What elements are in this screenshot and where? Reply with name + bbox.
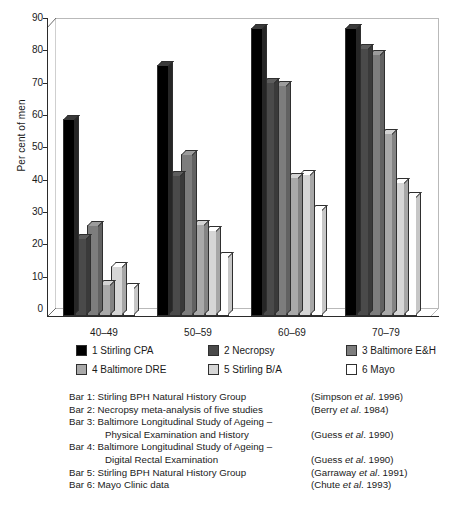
bar-side-face — [204, 220, 209, 315]
legend-label: 2 Necropsy — [224, 345, 275, 356]
bar-side-face — [216, 226, 221, 315]
bar-side-face — [416, 192, 421, 315]
legend-entry[interactable]: 2 Necropsy — [208, 341, 275, 359]
y-tick-label: 30 — [32, 207, 43, 217]
legend-entry[interactable]: 4 Baltimore DRE — [76, 360, 166, 378]
legend-label: 3 Baltimore E&H — [362, 345, 436, 356]
bar-side-face — [286, 81, 291, 315]
bar-side-face — [310, 170, 315, 315]
caption-description: Bar 3: Baltimore Longitudinal Study of A… — [69, 416, 272, 429]
caption-description: Digital Rectal Examination — [105, 454, 218, 467]
caption-line: Bar 4: Baltimore Longitudinal Study of A… — [69, 441, 439, 454]
bar-side-face — [322, 205, 327, 315]
y-tick-label: 0 — [37, 304, 43, 314]
y-tick-label: 70 — [32, 78, 43, 88]
bar-side-face — [392, 129, 397, 315]
bar-side-face — [98, 221, 103, 315]
bar-group: 50–59 — [157, 25, 239, 316]
legend-entry[interactable]: 6 Mayo — [346, 360, 395, 378]
legend-swatch-icon — [346, 364, 357, 375]
legend-swatch-icon — [76, 364, 87, 375]
chart-legend: 1 Stirling CPA2 Necropsy3 Baltimore E&H … — [0, 341, 453, 383]
bar — [251, 28, 263, 316]
caption-block: Bar 1: Stirling BPH Natural History Grou… — [69, 391, 439, 492]
y-tick-mark — [43, 277, 47, 278]
caption-line: Physical Examination and History(Guess e… — [69, 429, 439, 442]
bar-side-face — [380, 50, 385, 315]
bar — [345, 28, 357, 316]
y-tick-mark — [43, 212, 47, 213]
bar-side-face — [192, 150, 197, 315]
legend-swatch-icon — [208, 345, 219, 356]
bar-group: 60–69 — [251, 25, 333, 316]
caption-reference: (Garraway et al. 1991) — [311, 467, 407, 480]
plot-left-wall — [47, 18, 56, 317]
bar-side-face — [228, 252, 233, 315]
bar-chart-figure: Per cent of men 0102030405060708090 40–4… — [0, 0, 453, 340]
bar — [157, 65, 169, 316]
y-tick-mark — [43, 83, 47, 84]
legend-swatch-icon — [208, 364, 219, 375]
caption-line: Digital Rectal Examination(Guess et al. … — [69, 454, 439, 467]
caption-description: Bar 1: Stirling BPH Natural History Grou… — [69, 391, 246, 404]
legend-label: 5 Stirling B/A — [224, 364, 282, 375]
legend-label: 1 Stirling CPA — [92, 345, 154, 356]
caption-description: Physical Examination and History — [105, 429, 249, 442]
legend-label: 6 Mayo — [362, 364, 395, 375]
bar-side-face — [368, 44, 373, 315]
caption-reference: (Simpson et al. 1996) — [311, 391, 403, 404]
legend-entry[interactable]: 3 Baltimore E&H — [346, 341, 436, 359]
bar-group: 70–79 — [345, 25, 427, 316]
y-tick-label: 80 — [32, 45, 43, 55]
y-tick-mark — [43, 147, 47, 148]
y-axis-title: Per cent of men — [16, 71, 27, 201]
caption-line: Bar 1: Stirling BPH Natural History Grou… — [69, 391, 439, 404]
caption-description: Bar 4: Baltimore Longitudinal Study of A… — [69, 441, 272, 454]
bar — [63, 119, 75, 316]
y-tick-mark — [43, 115, 47, 116]
caption-line: Bar 3: Baltimore Longitudinal Study of A… — [69, 416, 439, 429]
caption-description: Bar 2: Necropsy meta-analysis of five st… — [69, 404, 263, 417]
bar-side-face — [404, 178, 409, 315]
caption-reference: (Chute et al. 1993) — [311, 479, 391, 492]
legend-row-bottom: 4 Baltimore DRE5 Stirling B/A6 Mayo — [76, 360, 446, 378]
y-tick-mark — [43, 244, 47, 245]
y-tick-label: 50 — [32, 142, 43, 152]
bar-side-face — [134, 283, 139, 315]
y-tick-label: 60 — [32, 110, 43, 120]
bar-side-face — [274, 78, 279, 315]
y-tick-label: 90 — [32, 13, 43, 23]
bar-side-face — [168, 61, 173, 315]
legend-label: 4 Baltimore DRE — [92, 364, 166, 375]
x-axis-line — [47, 316, 439, 317]
bar-side-face — [180, 171, 185, 315]
bar-side-face — [356, 24, 361, 315]
bar-side-face — [74, 115, 79, 315]
y-tick-label: 40 — [32, 175, 43, 185]
caption-reference: (Berry et al. 1984) — [311, 404, 389, 417]
caption-reference: (Guess et al. 1990) — [311, 429, 393, 442]
bar-side-face — [298, 173, 303, 315]
bar-side-face — [110, 280, 115, 315]
y-axis-line — [47, 18, 48, 317]
legend-entry[interactable]: 5 Stirling B/A — [208, 360, 282, 378]
x-tick-label: 40–49 — [63, 327, 145, 338]
plot-area: 0102030405060708090 40–4950–5960–6970–79 — [47, 18, 439, 317]
caption-line: Bar 5: Stirling BPH Natural History Grou… — [69, 467, 439, 480]
legend-row-top: 1 Stirling CPA2 Necropsy3 Baltimore E&H — [76, 341, 446, 359]
legend-entry[interactable]: 1 Stirling CPA — [76, 341, 154, 359]
caption-reference: (Guess et al. 1990) — [311, 454, 393, 467]
x-tick-label: 70–79 — [345, 327, 427, 338]
y-tick-mark — [43, 50, 47, 51]
caption-line: Bar 6: Mayo Clinic data(Chute et al. 199… — [69, 479, 439, 492]
x-tick-label: 60–69 — [251, 327, 333, 338]
bar-side-face — [86, 234, 91, 315]
bar-side-face — [262, 24, 267, 315]
caption-description: Bar 6: Mayo Clinic data — [69, 479, 169, 492]
x-tick-label: 50–59 — [157, 327, 239, 338]
caption-description: Bar 5: Stirling BPH Natural History Grou… — [69, 467, 246, 480]
y-tick-mark — [43, 180, 47, 181]
legend-swatch-icon — [346, 345, 357, 356]
bar-side-face — [122, 262, 127, 315]
y-tick-label: 20 — [32, 239, 43, 249]
